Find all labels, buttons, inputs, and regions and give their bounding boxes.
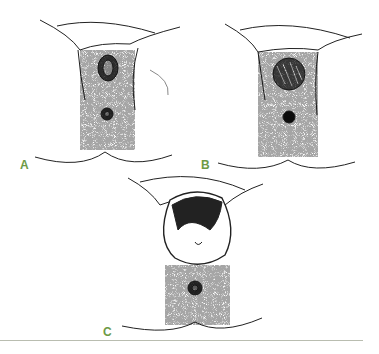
panel-label-a: A — [20, 158, 29, 172]
figure-illustration — [0, 0, 379, 354]
panel-b-drawing — [218, 24, 362, 168]
panel-label-c: C — [103, 325, 112, 339]
panel-c-drawing — [122, 177, 263, 331]
bottom-divider — [0, 340, 363, 341]
panel-a-drawing — [35, 20, 180, 162]
panel-label-b: B — [201, 158, 210, 172]
